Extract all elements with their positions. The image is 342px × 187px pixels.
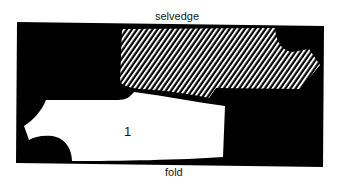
fold-label: fold [165, 167, 183, 178]
cutting-layout-diagram: 1 [0, 0, 342, 187]
piece-number-1: 1 [124, 124, 131, 139]
